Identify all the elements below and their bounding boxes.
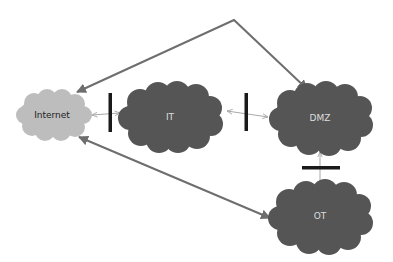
firewall-internet-it <box>109 93 113 132</box>
cloud-it: IT <box>118 81 223 153</box>
cloud-internet: Internet <box>16 89 92 141</box>
network-diagram: Internet IT <box>0 0 393 262</box>
node-label-it: IT <box>166 112 175 122</box>
firewall-dmz-ot <box>302 166 340 170</box>
node-label-dmz: DMZ <box>310 113 331 123</box>
node-label-internet: Internet <box>34 110 70 120</box>
cloud-dmz: DMZ <box>269 81 373 156</box>
edge-internet-it <box>92 113 120 115</box>
edge-internet-dmz <box>77 20 307 92</box>
node-label-ot: OT <box>314 211 327 221</box>
firewall-it-dmz <box>245 93 249 131</box>
cloud-ot: OT <box>268 179 373 255</box>
